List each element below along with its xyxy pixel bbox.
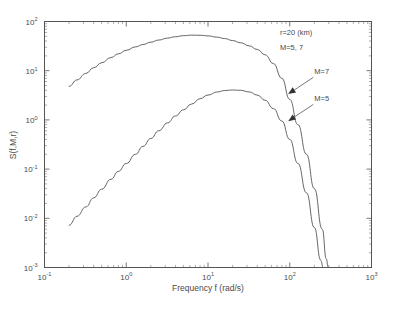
chart-figure: 10-110010110210310210110010-110-210-3 r=… [0,0,396,313]
y-axis-label: S(f,M,r) [8,131,18,159]
x-axis-label: Frequency f (rad/s) [172,283,244,293]
series-callout-label-1: M=5 [314,94,329,103]
plot-background [0,0,396,313]
chart-canvas: 10-110010110210310210110010-110-210-3 r=… [0,0,396,313]
annotation-1: M=5, 7 [280,43,303,52]
series-callout-label-0: M=7 [314,67,329,76]
annotation-0: r=20 (km) [280,28,313,37]
